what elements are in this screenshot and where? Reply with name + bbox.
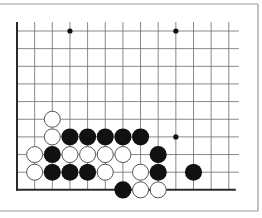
black-stone xyxy=(97,128,114,145)
go-board xyxy=(0,0,262,218)
star-point xyxy=(173,134,178,139)
go-diagram xyxy=(0,0,262,218)
black-stone xyxy=(79,164,96,181)
black-stone xyxy=(114,128,131,145)
white-stone xyxy=(27,147,43,163)
white-stone xyxy=(44,129,60,145)
white-stone xyxy=(62,147,78,163)
black-stone xyxy=(61,164,78,181)
black-stone xyxy=(132,128,149,145)
white-stone xyxy=(150,182,166,198)
black-stone xyxy=(150,146,167,163)
white-stone xyxy=(133,182,149,198)
white-stone xyxy=(115,147,131,163)
white-stone xyxy=(133,164,149,180)
white-stone xyxy=(44,111,60,127)
white-stone xyxy=(80,147,96,163)
diagram-frame xyxy=(0,4,258,211)
black-stone xyxy=(150,164,167,181)
star-point xyxy=(67,28,72,33)
white-stone xyxy=(27,164,43,180)
black-stone xyxy=(61,128,78,145)
black-stone xyxy=(44,164,61,181)
black-stone xyxy=(44,146,61,163)
black-stone xyxy=(79,128,96,145)
star-point xyxy=(173,28,178,33)
white-stone xyxy=(97,164,113,180)
black-stone xyxy=(185,164,202,181)
white-stone xyxy=(97,147,113,163)
black-stone xyxy=(114,181,131,198)
